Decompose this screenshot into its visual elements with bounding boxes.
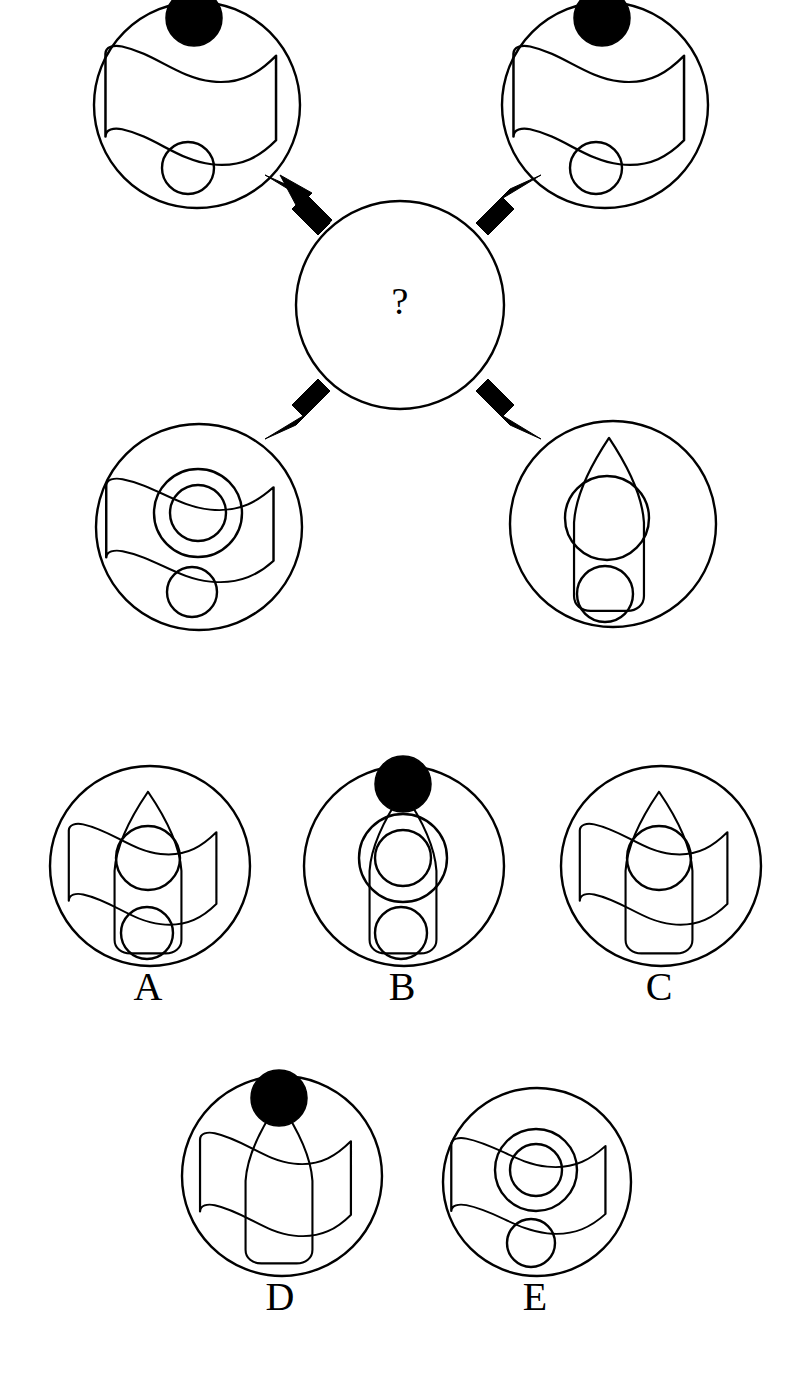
black-dot-icon [375, 756, 431, 812]
black-dot-icon [166, 0, 222, 46]
arrow-to-top-right [476, 175, 541, 235]
wavy-flag-icon [69, 824, 217, 925]
concentric-inner-circle-icon [510, 1144, 562, 1196]
source-panel-bottom-left [96, 424, 302, 630]
inner-circle-icon [627, 826, 691, 890]
arrow-to-bottom-right [476, 379, 541, 439]
small-circle-bottom-icon [162, 142, 214, 194]
concentric-outer-circle-icon [154, 469, 242, 557]
center-unknown-panel: ? [296, 201, 504, 409]
small-circle-bottom-icon [577, 566, 633, 622]
small-circle-bottom-icon [375, 907, 427, 959]
arrow-to-bottom-left [265, 379, 330, 439]
wavy-flag-icon [200, 1133, 351, 1237]
small-circle-bottom-icon [121, 907, 173, 959]
inner-circle-icon [565, 476, 649, 560]
concentric-inner-circle-icon [170, 485, 226, 541]
source-panel-top-right [502, 0, 708, 208]
question-mark-label: ? [392, 280, 409, 322]
puzzle-svg: ? A B [0, 0, 806, 1382]
option-c[interactable]: C [561, 766, 761, 1009]
option-d[interactable]: D [182, 1070, 382, 1319]
wavy-flag-icon [513, 46, 684, 165]
option-outer-circle[interactable] [443, 1088, 631, 1276]
wavy-flag-icon [105, 46, 276, 165]
arrow-to-top-left [265, 175, 332, 235]
wavy-flag-icon [580, 824, 728, 925]
option-b[interactable]: B [304, 756, 504, 1009]
option-label-e: E [523, 1274, 547, 1319]
concentric-inner-circle-icon [375, 830, 431, 886]
option-e[interactable]: E [443, 1088, 631, 1319]
puzzle-canvas: ? A B [0, 0, 806, 1382]
inner-circle-icon [116, 826, 180, 890]
black-dot-icon [574, 0, 630, 46]
option-a[interactable]: A [50, 766, 250, 1009]
option-label-c: C [646, 964, 673, 1009]
rocket-body-icon [626, 792, 693, 954]
option-label-b: B [389, 964, 416, 1009]
rocket-body-icon [574, 438, 644, 611]
panel-outer-circle [510, 421, 716, 627]
small-circle-bottom-icon [570, 142, 622, 194]
option-label-d: D [266, 1274, 295, 1319]
option-label-a: A [134, 964, 163, 1009]
panel-outer-circle [96, 424, 302, 630]
small-circle-bottom-icon [507, 1219, 555, 1267]
black-dot-icon [251, 1070, 307, 1126]
small-circle-bottom-icon [167, 567, 217, 617]
concentric-outer-circle-icon [495, 1129, 577, 1211]
rocket-body-icon [115, 792, 182, 954]
source-panel-bottom-right [510, 421, 716, 627]
